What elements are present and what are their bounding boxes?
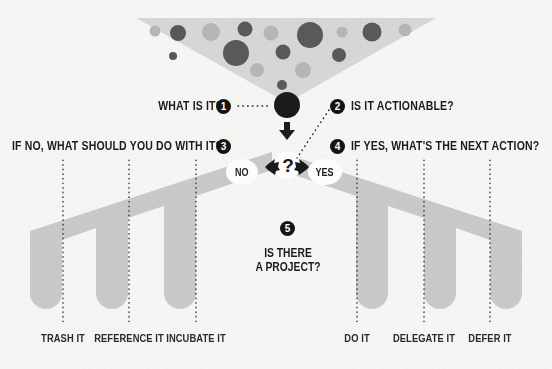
question-1-badge: 1 [216,99,231,114]
question-3-label: IF NO, WHAT SHOULD YOU DO WITH IT? [12,140,222,153]
decision-question-mark: ? [280,156,296,175]
infographic-canvas: WHAT IS IT? 1 2 IS IT ACTIONABLE? IF NO,… [0,0,552,369]
question-5-badge: 5 [280,221,295,236]
question-4-label: IF YES, WHAT'S THE NEXT ACTION? [351,140,539,153]
question-3-badge: 3 [216,139,231,154]
question-5-line-1: IS THERE [244,246,332,260]
gtd-diagram [0,0,552,369]
question-5-line-2: A PROJECT? [244,260,332,274]
paper-grain [0,0,552,369]
outcome-incubate-it: INCUBATE IT [142,333,249,344]
question-4-badge: 4 [330,139,345,154]
question-2-label: IS IT ACTIONABLE? [351,100,454,113]
decision-no-label: NO [235,167,249,178]
outcome-defer-it: DEFER IT [436,333,543,344]
question-1-label: WHAT IS IT? [158,100,222,113]
decision-yes-label: YES [315,167,333,178]
question-2-badge: 2 [330,99,345,114]
question-5-label: IS THERE A PROJECT? [237,246,339,274]
